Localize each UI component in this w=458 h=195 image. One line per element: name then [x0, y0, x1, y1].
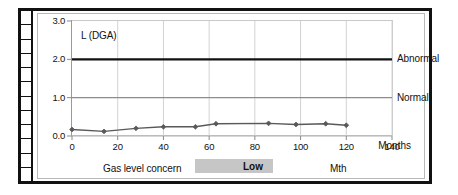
y-tick-label: 2.0 — [41, 53, 65, 64]
threshold-label-abnormal: Abnormal — [397, 53, 439, 64]
status-badge-value: Low — [243, 161, 263, 172]
y-tick-label: 1.0 — [41, 92, 65, 103]
chart-title: L (DGA) — [81, 30, 117, 41]
tick-strip-cell — [21, 139, 31, 153]
tick-strip-cell — [21, 125, 31, 139]
x-tick-label: 80 — [242, 141, 268, 152]
y-tick-marks — [67, 21, 72, 136]
footer-bar: Gas level concern Low Mth — [41, 158, 423, 178]
tick-strip-cell — [21, 40, 31, 54]
plot-area: L (DGA) 0.01.02.03.0 020406080100120140 … — [41, 14, 423, 154]
x-tick-label: 120 — [333, 141, 359, 152]
y-tick-label: 0.0 — [41, 130, 65, 141]
tick-strip-cell — [21, 68, 31, 82]
y-tick-label: 3.0 — [41, 15, 65, 26]
x-tick-label: 40 — [150, 141, 176, 152]
gridlines — [72, 21, 392, 136]
unit-label: Mth — [330, 163, 347, 174]
status-badge: Low — [195, 159, 273, 173]
tick-strip-cell — [21, 25, 31, 39]
tick-strip-cell — [21, 97, 31, 111]
x-tick-label: 20 — [105, 141, 131, 152]
tick-strip-cell — [21, 154, 31, 168]
x-tick-marks — [72, 136, 392, 140]
threshold-label-normal: Normal — [397, 92, 429, 103]
tick-strip-cell — [21, 111, 31, 125]
gas-level-concern-label: Gas level concern — [103, 163, 181, 174]
tick-strip-cell — [21, 82, 31, 96]
x-axis-title: Months — [378, 140, 411, 151]
chart-screenshot: L (DGA) 0.01.02.03.0 020406080100120140 … — [0, 0, 458, 195]
x-tick-label: 100 — [288, 141, 314, 152]
x-tick-label: 0 — [59, 141, 85, 152]
tick-strip-cell — [21, 168, 31, 181]
threshold-lines — [72, 59, 392, 97]
left-tick-strip — [21, 11, 33, 181]
x-tick-label: 60 — [196, 141, 222, 152]
tick-strip-cell — [21, 54, 31, 68]
tick-strip-cell — [21, 11, 31, 25]
